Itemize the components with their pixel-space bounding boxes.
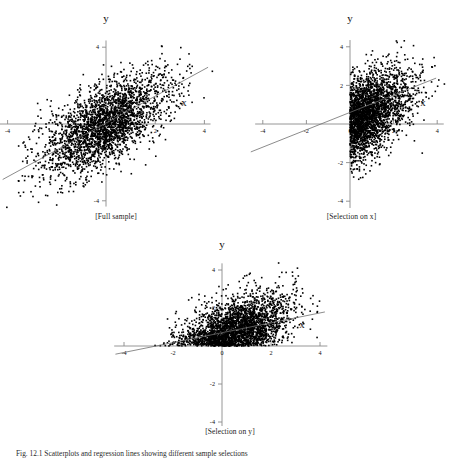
x-tick-label: 4 [436,127,439,134]
x-tick-label: -4 [5,127,10,134]
y-axis-label: y [219,238,225,250]
x-axis-label: x [299,318,305,330]
y-tick-label: -4 [94,197,99,204]
x-tick-label: -2 [170,349,175,356]
scatter-plot-selection-on-y: -4-202442-2-4yx [110,234,350,426]
y-tick-label: 4 [340,43,343,50]
x-tick-label: 0 [220,349,223,356]
regression-line [115,312,324,354]
axes [255,40,444,208]
regression-line [251,78,436,152]
scatter-plot-full-sample: -4244-4yx [0,6,232,211]
y-tick-label: 4 [96,43,99,50]
panel-selection-on-y: -4-202442-2-4yx [110,234,350,426]
data-points [6,45,213,208]
y-tick-label: -4 [338,197,343,204]
x-tick-label: 4 [318,349,321,356]
x-tick-label: 2 [269,349,272,356]
figure-scatterplot-panels: -4244-4yx [Full sample] -4-202442-2-4yx … [0,0,463,459]
regression-line [3,67,208,179]
y-tick-label: 4 [212,266,215,273]
scatter-plot-selection-on-x: -4-202442-2-4yx [240,6,463,211]
data-points [154,262,320,347]
y-tick-label: -2 [338,159,343,166]
data-points [349,40,445,180]
panel-full-sample: -4244-4yx [0,6,232,211]
x-tick-label: -4 [260,127,265,134]
x-axis-label: x [420,96,426,108]
panel-caption-selection-on-x: [Selection on x] [240,212,463,221]
panel-caption-full-sample: [Full sample] [0,212,232,221]
panel-selection-on-x: -4-202442-2-4yx [240,6,463,211]
y-tick-label: -2 [210,380,215,387]
y-tick-label: -4 [210,418,215,425]
figure-bottom-caption: Fig. 12.1 Scatterplots and regression li… [16,449,456,459]
y-axis-label: y [347,12,353,24]
x-axis-label: x [181,96,187,108]
x-tick-label: 2 [154,127,157,134]
panel-caption-selection-on-y: [Selection on y] [110,427,350,436]
y-tick-label: 2 [340,82,343,89]
y-axis-label: y [103,12,109,24]
x-tick-label: 4 [203,127,206,134]
